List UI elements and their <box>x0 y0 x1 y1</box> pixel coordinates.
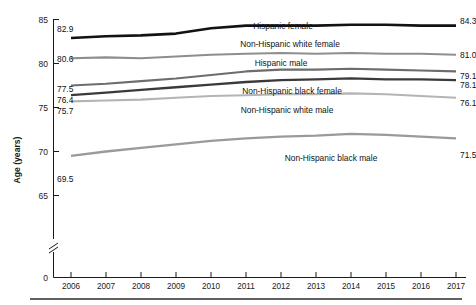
x-tick-label-2010: 2010 <box>202 282 221 291</box>
x-tick-label-2007: 2007 <box>97 282 116 291</box>
y-tick-label-75: 75 <box>39 103 49 113</box>
x-tick-label-2013: 2013 <box>307 282 326 291</box>
end-value-nh-black-male: 71.5 <box>460 150 476 160</box>
end-value-hispanic-female: 84.3 <box>460 16 476 26</box>
start-value-nh-black-male: 69.5 <box>57 174 74 184</box>
x-tick-label-2012: 2012 <box>272 282 291 291</box>
y-tick-label-70: 70 <box>39 147 49 157</box>
x-tick-label-2016: 2016 <box>412 282 431 291</box>
series-label-hispanic-male: Hispanic male <box>255 58 308 68</box>
axis-break-icon <box>49 243 58 253</box>
start-value-nh-white-female: 80.6 <box>57 54 74 64</box>
x-tick-label-2011: 2011 <box>237 282 255 291</box>
y-axis-title: Age (years) <box>12 136 22 183</box>
series-line-non-hispanic-black-male <box>71 134 456 156</box>
end-value-nh-white-male: 76.1 <box>460 98 476 108</box>
chart-svg: 85 80 75 70 65 0 Age (years) 2006 2007 2… <box>0 0 476 305</box>
x-tick-marks <box>71 272 456 278</box>
end-value-nh-white-female: 81.0 <box>460 50 476 60</box>
series-label-nh-black-male: Non-Hispanic black male <box>285 153 378 163</box>
line-chart-figure: 85 80 75 70 65 0 Age (years) 2006 2007 2… <box>0 0 476 305</box>
series-label-nh-black-female: Non-Hispanic black female <box>242 86 342 96</box>
x-tick-label-2008: 2008 <box>132 282 151 291</box>
x-tick-label-2009: 2009 <box>167 282 186 291</box>
series-label-hispanic-female: Hispanic female <box>253 21 313 31</box>
start-value-hispanic-female: 82.9 <box>57 24 74 34</box>
x-tick-label-2014: 2014 <box>342 282 361 291</box>
series-label-nh-white-female: Non-Hispanic white female <box>240 39 340 49</box>
start-value-nh-black-female: 76.4 <box>57 95 74 105</box>
series-line-hispanic-male <box>71 69 456 86</box>
y-tick-label-85: 85 <box>39 15 49 25</box>
y-tick-label-80: 80 <box>39 59 49 69</box>
x-tick-label-2015: 2015 <box>377 282 396 291</box>
y-tick-label-0: 0 <box>43 273 48 283</box>
y-tick-label-65: 65 <box>39 191 49 201</box>
series-label-nh-white-male: Non-Hispanic white male <box>241 105 334 115</box>
start-value-nh-white-male: 75.7 <box>57 106 74 116</box>
start-value-hispanic-male: 77.5 <box>57 84 74 94</box>
end-value-nh-black-female: 78.1 <box>460 80 476 90</box>
x-tick-label-2017: 2017 <box>447 282 466 291</box>
x-tick-label-2006: 2006 <box>62 282 81 291</box>
